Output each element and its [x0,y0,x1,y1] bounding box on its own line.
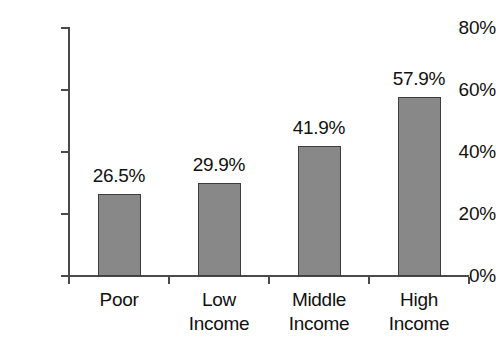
y-axis-tick [61,89,69,91]
bar [398,97,441,276]
category-label-line-1: Middle [292,289,346,310]
category-label-line-2: Income [364,312,474,336]
bar-value-label: 57.9% [374,69,464,88]
bar-value-label: 26.5% [74,166,164,185]
y-axis-tick [61,213,69,215]
bar [98,194,141,276]
y-axis-tick [61,27,69,29]
bar [298,146,341,276]
bar-value-label: 29.9% [174,155,264,174]
category-label-line-2: Income [264,312,374,336]
x-axis-tick [268,277,270,284]
x-axis-tick [168,277,170,284]
x-axis-tick [368,277,370,284]
x-axis-tick [468,277,470,284]
category-label-line-1: Poor [100,289,139,310]
x-axis-category-label: LowIncome [164,288,274,336]
category-label-line-1: Low [202,289,236,310]
plot-area [69,28,469,276]
x-axis-category-label: Poor [64,288,174,312]
x-axis-category-label: HighIncome [364,288,474,336]
y-axis-tick [61,151,69,153]
category-label-line-1: High [400,289,438,310]
bar-value-label: 41.9% [274,118,364,137]
bar-chart: 0%20%40%60%80% 26.5%29.9%41.9%57.9% Poor… [0,0,496,339]
x-axis-category-label: MiddleIncome [264,288,374,336]
category-label-line-2: Income [164,312,274,336]
bar [198,183,241,276]
x-axis-tick [68,277,70,284]
